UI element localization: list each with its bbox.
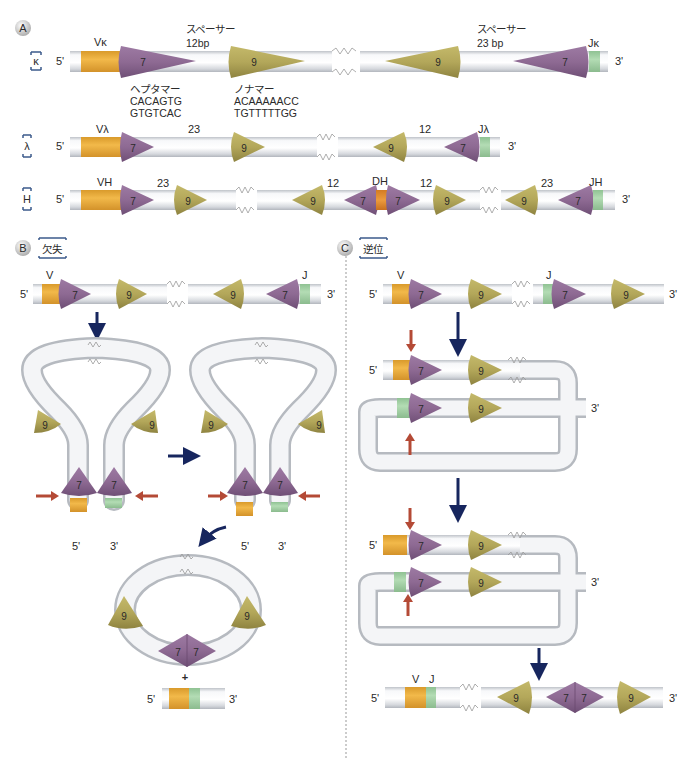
spacer-12-title: スペーサー [186,23,235,35]
spacer-length: 23 [541,177,553,189]
arrow-head [405,433,415,441]
three-prime-label: 3' [278,540,286,552]
nonamer-number: 9 [623,290,629,301]
hairpin-loop-2: 9 9 7 7 5' 3' [200,342,326,552]
nonamer-number: 9 [521,196,527,207]
nonamer-number: 9 [244,611,250,622]
heptamer-number: 7 [563,693,569,704]
nonamer-number: 9 [478,366,484,377]
spacer-12-length: 12bp [186,37,210,49]
spacer-length-23: 23 [188,123,200,135]
nonamer-icon [468,393,502,423]
heptamer-icon [552,279,587,309]
nonamer-number: 9 [388,143,394,154]
nonamer-number: 9 [316,420,322,431]
break-zigzag-icon [460,705,478,711]
inversion-fold-2: 5' 7 9 7 9 3' [368,508,599,636]
heptamer-number: 7 [111,480,117,491]
nonamer-icon [468,279,502,309]
five-prime-label: 5' [369,364,377,376]
break-zigzag-icon [236,207,254,213]
nonamer-icon [468,567,502,597]
d-heavy-label: DH [372,175,388,187]
j-segment [300,284,310,304]
heptamer-number: 7 [418,290,424,301]
j-segment [271,502,288,512]
break-zigzag-icon [332,48,356,54]
nonamer-icon [468,355,502,385]
panel-b-badge-label: B [19,242,26,254]
nonamer-number: 9 [478,290,484,301]
j-segment [426,687,436,708]
v-segment [405,687,426,708]
panel-b-title: 欠失 [42,243,63,255]
nonamer-number: 9 [230,290,236,301]
heptamer-icon [119,46,197,78]
j-segment [189,688,200,709]
nonamer-icon [468,530,502,560]
heavy-label: H [23,193,31,205]
inversion-germline: 5' 7 9 7 9 3' V J [369,269,677,309]
three-prime-label: 3' [591,402,599,414]
heptamer-title: ヘプタマー [130,83,180,95]
arrow-head [135,491,143,501]
spacer-23-length: 23 bp [477,37,503,49]
panel-c-title: 逆位 [363,243,384,255]
v-label: V [46,269,54,281]
three-prime-label: 3' [591,576,599,588]
v-kappa-segment [81,51,121,72]
nonamer-number: 9 [121,611,127,622]
break-zigzag-icon [167,281,185,287]
five-prime-label: 5' [369,539,377,551]
break-zigzag-icon [512,301,530,307]
spacer-length: 12 [420,177,432,189]
arrow-head [406,344,416,352]
heptamer-number: 7 [76,480,82,491]
heptamer-number: 7 [418,541,424,552]
inversion-fold-1: 5' 7 9 7 9 3' [368,330,599,462]
break-zigzag-icon [317,134,335,140]
heptamer-icon [409,567,443,597]
five-prime-label: 5' [371,692,379,704]
coding-joint: 5' 3' [147,688,237,709]
heptamer-icon [409,355,443,385]
nonamer-number: 9 [478,404,484,415]
plus-sign: + [182,671,188,683]
heptamer-icon [120,132,154,162]
nonamer-number: 9 [208,420,214,431]
break-zigzag-icon [460,684,478,690]
spacer-length: 23 [157,177,169,189]
v-segment [392,284,410,304]
spacer-length: 12 [327,177,339,189]
kappa-label: κ [33,55,39,67]
break-zigzag-icon [480,187,498,193]
heptamer-icon [513,46,589,78]
nonamer-number: 9 [444,196,450,207]
nonamer-icon [292,185,325,215]
v-lambda-label: Vλ [96,123,109,135]
nonamer-number: 9 [310,196,316,207]
v-label: V [412,673,420,685]
j-label: J [429,673,435,685]
heptamer-number: 7 [360,196,366,207]
three-prime-label: 3' [229,693,237,705]
nonamer-seq-top: ACAAAAACC [234,95,299,107]
heptamer-number: 7 [395,196,401,207]
heptamer-number: 7 [277,480,283,491]
heptamer-icon [409,530,443,560]
kappa-locus: κ 5' 7 9 9 7 3' Vκ Jκ スペーサー 12bp スペーサー 2… [31,23,623,119]
j-segment [105,498,122,508]
five-prime-label: 5' [56,193,64,205]
heptamer-number: 7 [72,290,78,301]
j-kappa-segment [589,51,600,72]
panel-c: C 逆位 5' 7 9 7 9 3' V J [337,238,677,714]
nonamer-icon [229,46,306,78]
break-zigzag-icon [317,154,335,160]
nonamer-number: 9 [513,693,519,704]
heptamer-icon [409,279,443,309]
five-prime-label: 5' [241,540,249,552]
three-prime-label: 3' [622,193,630,205]
spacer-23-title: スペーサー [477,23,526,35]
v-segment [393,360,411,380]
nonamer-icon [231,132,265,162]
